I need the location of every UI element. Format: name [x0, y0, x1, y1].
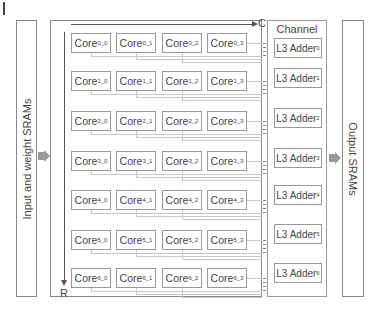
row-wire — [182, 140, 262, 141]
input-tick-icon — [263, 129, 266, 130]
row-wire — [247, 200, 262, 201]
input-tick-icon — [263, 85, 266, 86]
channel-adders-title-line1: Channel — [268, 23, 326, 36]
core-index: 3_3 — [233, 158, 243, 164]
core-index: 1_3 — [233, 78, 243, 84]
core-2-0: Core2_0 — [71, 111, 111, 131]
column-wire — [91, 171, 92, 174]
row-wire — [247, 43, 262, 44]
adder-label: L3 Adder — [276, 73, 316, 84]
core-3-1: Core3_1 — [116, 151, 156, 171]
core-index: 2_1 — [142, 118, 152, 124]
row-wire — [247, 161, 262, 162]
input-tick-icon — [263, 208, 266, 209]
input-tick-icon — [263, 89, 266, 90]
input-tick-icon — [263, 290, 266, 291]
core-1-0: Core1_0 — [71, 71, 111, 91]
core-5-2: Core5_2 — [162, 230, 202, 250]
row-wire — [247, 240, 262, 241]
column-wire — [91, 210, 92, 213]
column-wire — [136, 210, 137, 216]
core-0-3: Core0_3 — [207, 33, 247, 53]
input-tick-icon — [263, 286, 266, 287]
adder-label: L3 Adder — [276, 190, 316, 201]
column-wire — [91, 288, 92, 291]
input-tick-icon — [263, 93, 266, 94]
core-0-0: Core0_0 — [71, 33, 111, 53]
core-index: 4_3 — [233, 197, 243, 203]
adder-index: 5 — [316, 231, 319, 237]
input-sram-block: Input and weight SRAMs — [16, 20, 37, 297]
row-wire — [182, 219, 262, 220]
l3-adder-2: L3 Adder2 — [274, 108, 322, 128]
row-wire — [136, 97, 262, 98]
row-wire — [182, 100, 262, 101]
input-tick-icon — [263, 173, 266, 174]
adder-index: 3 — [316, 155, 319, 161]
adder-label: L3 Adder — [276, 153, 316, 164]
l3-adder-4: L3 Adder4 — [274, 185, 322, 205]
adder-index: 0 — [316, 45, 319, 51]
column-wire — [136, 171, 137, 177]
input-tick-icon — [263, 212, 266, 213]
input-tick-icon — [263, 240, 266, 241]
core-5-1: Core5_1 — [116, 230, 156, 250]
core-1-1: Core1_1 — [116, 71, 156, 91]
row-wire — [91, 134, 262, 135]
core-label: Core — [166, 272, 189, 284]
input-sram-label: Input and weight SRAMs — [21, 98, 33, 219]
core-6-2: Core6_2 — [162, 268, 202, 288]
core-index: 0_2 — [188, 40, 198, 46]
core-6-3: Core6_3 — [207, 268, 247, 288]
input-tick-icon — [263, 200, 266, 201]
core-label: Core — [75, 115, 98, 127]
core-6-1: Core6_1 — [116, 268, 156, 288]
l3-adder-5: L3 Adder5 — [274, 224, 322, 244]
row-wire — [136, 294, 262, 295]
row-wire — [91, 291, 262, 292]
core-2-1: Core2_1 — [116, 111, 156, 131]
core-label: Core — [120, 37, 143, 49]
core-4-3: Core4_3 — [207, 190, 247, 210]
column-wire — [136, 131, 137, 137]
core-label: Core — [166, 155, 189, 167]
column-wire — [136, 288, 137, 294]
core-index: 6_0 — [97, 275, 107, 281]
input-tick-icon — [263, 278, 266, 279]
input-tick-icon — [263, 43, 266, 44]
adder-label: L3 Adder — [276, 113, 316, 124]
core-3-3: Core3_3 — [207, 151, 247, 171]
row-axis-label: R — [60, 287, 68, 299]
core-label: Core — [166, 234, 189, 246]
core-2-2: Core2_2 — [162, 111, 202, 131]
column-wire — [91, 131, 92, 134]
row-wire — [136, 177, 262, 178]
core-label: Core — [120, 194, 143, 206]
column-wire — [91, 53, 92, 56]
column-wire — [136, 250, 137, 256]
row-wire — [247, 81, 262, 82]
core-label: Core — [120, 115, 143, 127]
column-wire — [182, 91, 183, 100]
input-tick-icon — [263, 55, 266, 56]
core-label: Core — [211, 194, 234, 206]
core-label: Core — [166, 194, 189, 206]
input-tick-icon — [263, 47, 266, 48]
row-wire — [91, 94, 262, 95]
column-wire — [136, 53, 137, 59]
core-1-3: Core1_3 — [207, 71, 247, 91]
l3-adder-3: L3 Adder3 — [274, 148, 322, 168]
core-label: Core — [166, 37, 189, 49]
row-wire — [91, 56, 262, 57]
core-4-2: Core4_2 — [162, 190, 202, 210]
core-label: Core — [75, 194, 98, 206]
input-tick-icon — [263, 133, 266, 134]
input-tick-icon — [263, 165, 266, 166]
column-axis-label: C — [258, 17, 266, 29]
row-wire — [91, 253, 262, 254]
core-label: Core — [120, 75, 143, 87]
core-3-2: Core3_2 — [162, 151, 202, 171]
core-label: Core — [211, 115, 234, 127]
input-tick-icon — [263, 244, 266, 245]
core-label: Core — [75, 75, 98, 87]
